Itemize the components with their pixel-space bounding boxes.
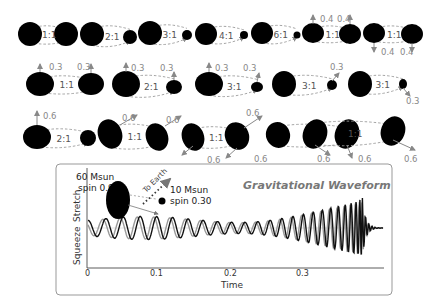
small-black-hole — [240, 31, 248, 39]
spin-magnitude-label: 0.3 — [215, 63, 229, 73]
large-black-hole — [26, 72, 54, 96]
mass-ratio-label: 3:1 — [302, 81, 316, 91]
mass-ratio-label: 1:1 — [60, 80, 74, 90]
spin-arrow — [393, 140, 415, 150]
large-black-hole — [112, 71, 140, 97]
binary-pair: 4:1 — [195, 23, 248, 45]
small-black-hole — [327, 80, 337, 90]
stretch-label: Stretch — [72, 190, 82, 222]
mass-ratio-label: 6:1 — [274, 30, 288, 40]
binary-pair: 1:1 — [302, 23, 361, 44]
spin-magnitude-label: 0.3 — [131, 63, 145, 73]
spin-magnitude-label: 0.6 — [246, 108, 260, 118]
mass-ratio-label: 1:1 — [209, 133, 223, 143]
small-black-hole — [401, 24, 423, 44]
large-black-hole — [195, 23, 217, 45]
waveform-panel: Gravitational Waveform Stretch Squeeze 0… — [56, 164, 392, 295]
spin-magnitude-label: 0.3 — [330, 62, 344, 72]
xtick-0.3: 0.3 — [296, 269, 309, 278]
spin-magnitude-label: 0.4 — [337, 14, 351, 24]
spin-magnitude-label: 0.6 — [122, 113, 136, 123]
small-black-hole — [80, 130, 96, 146]
binary-pair: 2:1 — [23, 125, 96, 149]
spin-magnitude-label: 0.3 — [406, 96, 420, 106]
binary-pair: 1:1 — [26, 72, 104, 96]
large-black-hole — [251, 22, 273, 44]
mass-ratio-label: 3:1 — [163, 30, 177, 40]
mass-ratio-label: 1:1 — [348, 129, 362, 139]
binary-pair: 1:1 — [299, 113, 410, 152]
spin-magnitude-label: 0.3 — [243, 63, 257, 73]
spin-magnitude-label: 0.4 — [320, 14, 334, 24]
mass-ratio-label: 1:1 — [326, 30, 340, 40]
small-black-hole — [78, 73, 104, 95]
spin-magnitude-label: 0.3 — [77, 62, 91, 72]
spin-arrow — [332, 73, 339, 81]
mass-ratio-label: 2:1 — [105, 32, 119, 42]
spin-magnitude-label: 0.6 — [404, 154, 418, 164]
xtick-0.1: 0.1 — [150, 269, 163, 278]
large-black-hole — [80, 22, 104, 46]
large-black-hole — [138, 21, 162, 45]
small-black-hole — [123, 30, 137, 44]
small-black-hole — [399, 79, 407, 89]
mass-ratio-label: 3:1 — [227, 82, 241, 92]
small-black-hole — [54, 22, 78, 46]
spin-magnitude-label: 0.6 — [166, 115, 180, 125]
big-mass-label: 60 Msun — [76, 172, 114, 182]
small-black-hole — [339, 24, 361, 44]
mass-ratio-label: 4:1 — [219, 31, 233, 41]
spin-magnitude-label: 0.6 — [358, 154, 372, 164]
big-black-hole — [106, 181, 130, 219]
spin-magnitude-label: 0.6 — [43, 111, 57, 121]
large-black-hole — [18, 22, 42, 46]
binary-pair: 1:1 — [363, 23, 423, 44]
spin-arrow — [403, 88, 410, 96]
binary-pair: 6:1 — [251, 22, 301, 44]
binary-pair: 3:1 — [195, 72, 263, 97]
small-black-hole — [159, 198, 166, 205]
binary-black-hole-figure: 1:12:13:14:16:11:11:11:12:13:13:13:12:11… — [0, 0, 442, 301]
mass-ratio-label: 1:1 — [387, 30, 401, 40]
small-black-hole — [182, 30, 192, 40]
squeeze-label: Squeeze — [72, 226, 82, 265]
binary-pair: 3:1 — [348, 71, 407, 97]
small-spin-label: spin 0.30 — [170, 196, 212, 206]
mass-ratio-label: 2:1 — [144, 82, 158, 92]
spin-magnitude-label: 0.6 — [317, 154, 331, 164]
large-black-hole — [195, 72, 223, 96]
small-black-hole — [377, 113, 410, 149]
binary-configurations: 1:12:13:14:16:11:11:11:12:13:13:13:12:11… — [18, 21, 423, 154]
binary-pair: 2:1 — [80, 22, 137, 47]
binary-pair: 3:1 — [138, 21, 192, 45]
binary-pair: 2:1 — [112, 71, 182, 97]
mass-ratio-label: 1:1 — [128, 132, 142, 142]
spin-magnitude-label: 0.3 — [160, 63, 174, 73]
orbit-path — [289, 75, 332, 79]
large-black-hole — [348, 71, 372, 97]
large-black-hole — [299, 116, 332, 152]
large-black-hole — [178, 120, 208, 154]
mass-ratio-label: 1:1 — [42, 30, 56, 40]
binary-pair: 1:1 — [18, 22, 78, 46]
mass-ratio-label: 2:1 — [57, 134, 71, 144]
spin-magnitude-label: 0.3 — [49, 62, 63, 72]
spin-magnitude-label: 0.6 — [254, 154, 268, 164]
xtick-0: 0 — [85, 269, 90, 278]
small-mass-label: 10 Msun — [170, 185, 208, 195]
large-black-hole — [272, 71, 296, 97]
spin-arrow — [226, 148, 237, 158]
binary-pair: 3:1 — [272, 71, 337, 97]
xtick-0.2: 0.2 — [224, 269, 237, 278]
small-black-hole — [294, 32, 301, 39]
spin-arrow — [257, 73, 259, 82]
small-black-hole — [251, 82, 263, 92]
large-black-hole — [302, 23, 324, 43]
mass-ratio-label: 3:1 — [376, 80, 390, 90]
large-black-hole — [363, 23, 385, 43]
large-black-hole — [23, 125, 51, 149]
x-axis-label: Time — [220, 280, 243, 290]
waveform-title: Gravitational Waveform — [243, 179, 391, 192]
spin-magnitude-label: 0.4 — [381, 47, 395, 57]
small-black-hole — [166, 80, 182, 94]
